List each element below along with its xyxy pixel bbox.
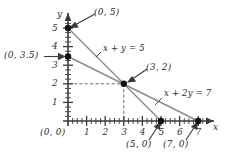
y-tick-label-4: 4 bbox=[52, 42, 58, 51]
data-points-group bbox=[65, 25, 202, 124]
line-x-plus-y-equals-5 bbox=[68, 28, 161, 121]
point-label-0-5: (0, 5) bbox=[94, 8, 119, 17]
x-tick-label-5: 5 bbox=[158, 128, 164, 137]
point-label-3-2: (3, 2) bbox=[146, 63, 171, 72]
x-axis-label: x bbox=[213, 123, 218, 132]
equation-label-line2: x + 2y = 7 bbox=[164, 89, 211, 98]
point-label-5-0: (5, 0) bbox=[126, 140, 151, 149]
point-3-2 bbox=[121, 81, 127, 87]
leader-arrowhead-0-3-5 bbox=[59, 54, 65, 60]
x-tick-label-7: 7 bbox=[196, 128, 202, 137]
leader-line-equation-1 bbox=[96, 52, 101, 57]
point-0-3-5 bbox=[65, 53, 71, 59]
y-axis-arrowhead bbox=[65, 13, 72, 21]
point-label-7-0: (7, 0) bbox=[163, 140, 188, 149]
point-label-0-3-5: (0, 3.5) bbox=[4, 51, 38, 60]
x-tick-label-1: 1 bbox=[84, 128, 90, 137]
y-tick-label-2: 2 bbox=[52, 79, 58, 88]
equation-label-line1: x + y = 5 bbox=[103, 44, 145, 53]
x-tick-label-6: 6 bbox=[177, 128, 183, 137]
leader-line-equation-2 bbox=[155, 98, 162, 105]
origin-label: (0, 0) bbox=[40, 128, 65, 137]
dashed-guides-group bbox=[69, 84, 124, 121]
x-tick-label-3: 3 bbox=[121, 128, 127, 137]
x-tick-label-2: 2 bbox=[103, 128, 109, 137]
x-tick-label-4: 4 bbox=[140, 128, 146, 137]
y-tick-label-3: 3 bbox=[52, 61, 58, 70]
leader-arrowhead-0-5 bbox=[71, 23, 78, 28]
point-0-5 bbox=[65, 25, 71, 31]
y-tick-label-5: 5 bbox=[52, 24, 58, 33]
coordinate-plot bbox=[0, 0, 226, 155]
point-5-0 bbox=[158, 118, 164, 124]
graph-figure: y x 5 4 3 2 1 1 2 3 4 5 6 7 (0, 5) (0, 3… bbox=[0, 0, 226, 155]
point-7-0 bbox=[195, 118, 201, 124]
y-axis-label: y bbox=[57, 10, 62, 19]
y-tick-label-1: 1 bbox=[52, 98, 58, 107]
axes-group bbox=[63, 13, 214, 126]
